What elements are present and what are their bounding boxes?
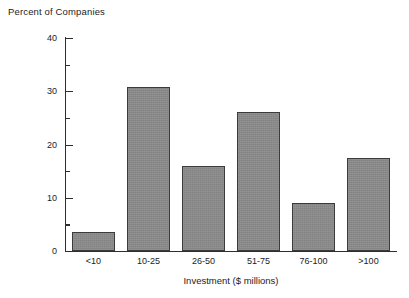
- bar: [347, 158, 390, 251]
- x-tick-label: 76-100: [299, 256, 327, 266]
- plot-area: 010203040: [66, 38, 396, 251]
- y-tick-label: 10: [47, 193, 57, 203]
- bar-chart: Percent of Companies 010203040 <1010-252…: [0, 0, 409, 298]
- y-tick-label: 20: [47, 140, 57, 150]
- x-tick-label: <10: [86, 256, 101, 266]
- x-tick-label: >100: [358, 256, 378, 266]
- bar: [72, 232, 115, 251]
- x-tick-label: 51-75: [247, 256, 270, 266]
- chart-title: Percent of Companies: [8, 6, 105, 17]
- x-tick-label: 10-25: [137, 256, 160, 266]
- y-tick-mark: [66, 251, 73, 252]
- y-tick-label: 40: [47, 33, 57, 43]
- y-tick-label: 30: [47, 86, 57, 96]
- bar: [237, 112, 280, 251]
- x-tick-label: 26-50: [192, 256, 215, 266]
- bar: [292, 203, 335, 251]
- bar: [182, 166, 225, 251]
- x-axis-title: Investment ($ millions): [66, 275, 396, 286]
- y-tick-label: 0: [52, 246, 57, 256]
- bar-series: [66, 38, 396, 251]
- bar: [127, 87, 170, 251]
- x-axis-line: [65, 251, 397, 252]
